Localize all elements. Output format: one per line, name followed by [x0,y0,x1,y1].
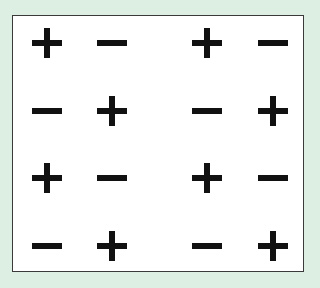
minus-sign-icon [258,163,288,193]
minus-sign-icon [192,96,222,126]
plus-sign-icon [258,96,288,126]
minus-sign-icon [258,28,288,58]
minus-sign-icon [32,96,62,126]
minus-sign-icon [32,231,62,261]
plus-sign-icon [97,231,127,261]
plus-sign-icon [32,28,62,58]
plus-sign-icon [97,96,127,126]
minus-sign-icon [97,163,127,193]
plus-sign-icon [32,163,62,193]
plus-sign-icon [258,231,288,261]
plus-sign-icon [192,28,222,58]
plus-sign-icon [192,163,222,193]
minus-sign-icon [97,28,127,58]
minus-sign-icon [192,231,222,261]
